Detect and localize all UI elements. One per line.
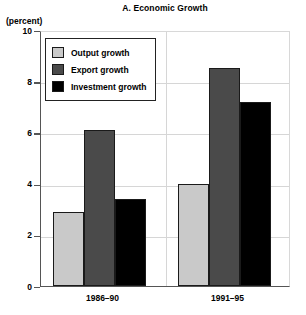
y-axis-tick-label: 0: [2, 283, 32, 292]
legend-item: Output growth: [52, 44, 147, 61]
y-axis-tick-mark: [34, 287, 40, 288]
legend-label: Investment growth: [71, 82, 147, 92]
legend-item: Investment growth: [52, 78, 147, 95]
economic-growth-chart-figure: A. Economic Growth (percent) 0246810 198…: [0, 0, 306, 315]
y-axis-tick-mark: [34, 185, 40, 186]
legend-swatch-export: [52, 64, 64, 75]
legend-swatch-output: [52, 47, 64, 58]
bar-output-1: [178, 184, 209, 286]
bar-investment-1: [240, 102, 271, 286]
x-axis-category-label: 1991–95: [165, 293, 290, 303]
y-axis-tick-label: 2: [2, 231, 32, 240]
bar-output-0: [53, 212, 84, 286]
y-axis-tick-label: 8: [2, 78, 32, 87]
x-axis-category-label: 1986–90: [40, 293, 165, 303]
group-separator: [166, 32, 167, 286]
y-axis-tick-mark: [34, 31, 40, 32]
y-axis-tick-label: 6: [2, 129, 32, 138]
chart-legend: Output growthExport growthInvestment gro…: [45, 38, 156, 101]
legend-swatch-investment: [52, 81, 64, 92]
y-axis-tick-mark: [34, 236, 40, 237]
chart-title: A. Economic Growth: [40, 3, 290, 13]
y-axis-tick-mark: [34, 133, 40, 134]
bar-investment-0: [115, 199, 146, 286]
legend-item: Export growth: [52, 61, 147, 78]
y-axis-tick-label: 4: [2, 180, 32, 189]
legend-label: Output growth: [71, 48, 130, 58]
bar-export-1: [209, 68, 240, 286]
y-axis-unit-label: (percent): [6, 16, 42, 26]
bar-export-0: [84, 130, 115, 286]
y-axis-tick-label: 10: [2, 27, 32, 36]
y-axis-tick-mark: [34, 82, 40, 83]
legend-label: Export growth: [71, 65, 129, 75]
